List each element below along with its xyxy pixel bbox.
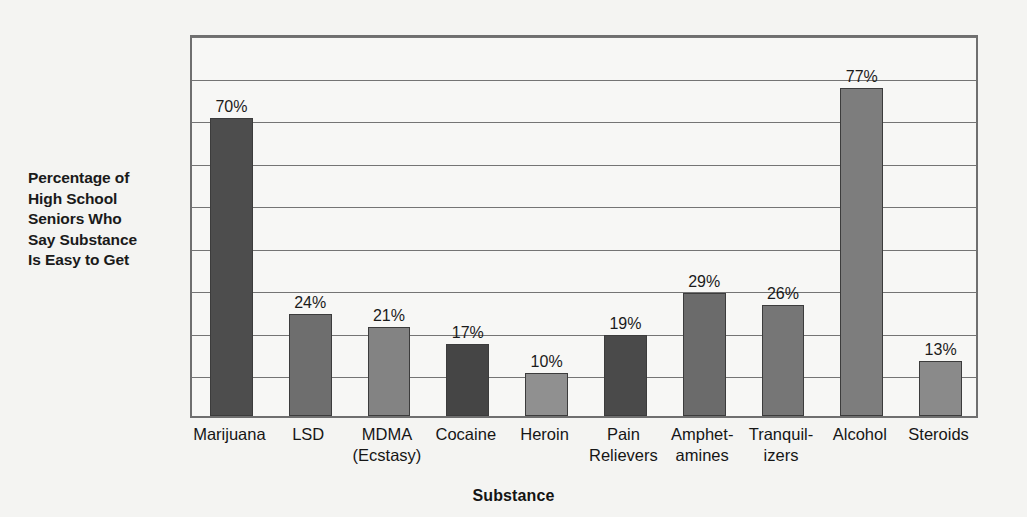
category-label: Marijuana — [190, 424, 269, 445]
bar-group: 77% — [840, 37, 883, 416]
bar[interactable] — [683, 293, 726, 416]
y-axis-title-line: Seniors Who — [28, 209, 180, 230]
category-label-line: Pain — [584, 424, 663, 445]
category-label: Tranquil-izers — [742, 424, 821, 466]
bar-group: 19% — [604, 37, 647, 416]
category-label: Heroin — [505, 424, 584, 445]
bar-value-label: 17% — [452, 324, 484, 342]
category-label-line: Alcohol — [820, 424, 899, 445]
category-label-line: Tranquil- — [742, 424, 821, 445]
bar-value-label: 29% — [688, 273, 720, 291]
category-label: MDMA(Ecstasy) — [348, 424, 427, 466]
y-axis-title-line: Percentage of — [28, 168, 180, 189]
y-axis-title-line: Is Easy to Get — [28, 250, 180, 271]
bar[interactable] — [604, 335, 647, 416]
category-label-line: Amphet- — [663, 424, 742, 445]
bars-layer: 70%24%21%17%10%19%29%26%77%13% — [192, 37, 976, 416]
bar-value-label: 19% — [609, 315, 641, 333]
bar-group: 10% — [525, 37, 568, 416]
bar-value-label: 77% — [846, 68, 878, 86]
category-label: Steroids — [899, 424, 978, 445]
category-label-line: Cocaine — [426, 424, 505, 445]
y-axis-title-line: High School — [28, 189, 180, 210]
category-label-line: amines — [663, 445, 742, 466]
bar[interactable] — [762, 305, 805, 416]
bar-group: 29% — [683, 37, 726, 416]
category-label-line: MDMA — [348, 424, 427, 445]
category-axis-labels: MarijuanaLSDMDMA(Ecstasy)CocaineHeroinPa… — [190, 424, 978, 482]
category-label: Amphet-amines — [663, 424, 742, 466]
category-label: PainRelievers — [584, 424, 663, 466]
bar-value-label: 10% — [531, 353, 563, 371]
bar-group: 21% — [368, 37, 411, 416]
bar-value-label: 21% — [373, 307, 405, 325]
bar[interactable] — [210, 118, 253, 416]
bar[interactable] — [446, 344, 489, 416]
bar[interactable] — [840, 88, 883, 416]
bar[interactable] — [919, 361, 962, 416]
category-label-line: (Ecstasy) — [348, 445, 427, 466]
x-axis-title: Substance — [0, 487, 1027, 505]
bar[interactable] — [289, 314, 332, 416]
bar-group: 26% — [762, 37, 805, 416]
category-label-line: Relievers — [584, 445, 663, 466]
category-label-line: Heroin — [505, 424, 584, 445]
bar-value-label: 24% — [294, 294, 326, 312]
bar-value-label: 70% — [215, 98, 247, 116]
category-label-line: Steroids — [899, 424, 978, 445]
category-label-line: LSD — [269, 424, 348, 445]
category-label-line: izers — [742, 445, 821, 466]
category-label: Alcohol — [820, 424, 899, 445]
bar[interactable] — [368, 327, 411, 416]
bar-group: 70% — [210, 37, 253, 416]
y-axis-title-line: Say Substance — [28, 230, 180, 251]
category-label: LSD — [269, 424, 348, 445]
bar-group: 17% — [446, 37, 489, 416]
category-label-line: Marijuana — [190, 424, 269, 445]
y-axis-title: Percentage ofHigh SchoolSeniors WhoSay S… — [28, 168, 180, 271]
bar-chart-figure: Percentage ofHigh SchoolSeniors WhoSay S… — [0, 0, 1027, 517]
bar-group: 13% — [919, 37, 962, 416]
category-label: Cocaine — [426, 424, 505, 445]
bar-group: 24% — [289, 37, 332, 416]
plot-area: 70%24%21%17%10%19%29%26%77%13% — [190, 35, 978, 418]
bar[interactable] — [525, 373, 568, 416]
bar-value-label: 26% — [767, 285, 799, 303]
bar-value-label: 13% — [925, 341, 957, 359]
